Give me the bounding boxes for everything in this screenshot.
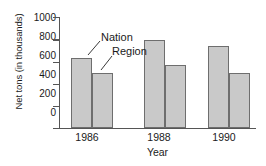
annotation-label-nation: Nation bbox=[101, 31, 133, 43]
bar-nation-1990 bbox=[208, 46, 229, 128]
x-tick-label-1988: 1988 bbox=[131, 131, 187, 143]
bar-region-1986 bbox=[92, 73, 113, 129]
bar-region-1988 bbox=[165, 65, 186, 128]
bar-nation-1988 bbox=[144, 40, 165, 128]
bar-chart: Net tons (in thousands) 1000 800 600 400… bbox=[0, 0, 266, 166]
x-tick-label-1990: 1990 bbox=[196, 131, 252, 143]
x-axis-title: Year bbox=[59, 146, 256, 158]
x-tick-label-1986: 1986 bbox=[59, 131, 115, 143]
bar-nation-1986 bbox=[71, 58, 92, 128]
annotation-label-region: Region bbox=[112, 45, 147, 57]
bar-region-1990 bbox=[229, 73, 250, 129]
